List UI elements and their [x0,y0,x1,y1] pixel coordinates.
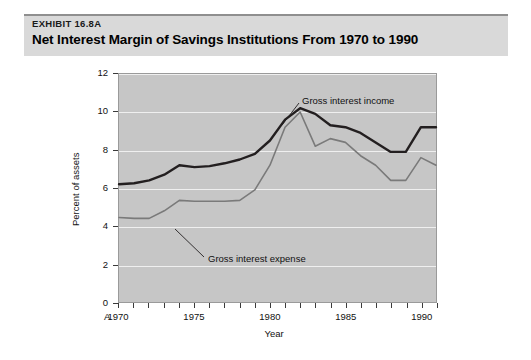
leader-line-income [282,103,299,125]
exhibit-number: EXHIBIT 16.8A [32,18,101,29]
exhibit-header-banner: EXHIBIT 16.8A Net Interest Margin of Sav… [24,14,508,56]
page-root: EXHIBIT 16.8A Net Interest Margin of Sav… [0,0,531,360]
exhibit-title: Net Interest Margin of Savings Instituti… [32,32,418,47]
annotation-leader-lines [24,56,508,346]
figure-card: Percent of assets 024681012 197019751980… [24,56,508,346]
figure-inner: Percent of assets 024681012 197019751980… [24,56,508,346]
banner-top-rule [24,14,508,16]
panel-letter: A [104,311,110,322]
leader-line-expense [175,229,204,257]
